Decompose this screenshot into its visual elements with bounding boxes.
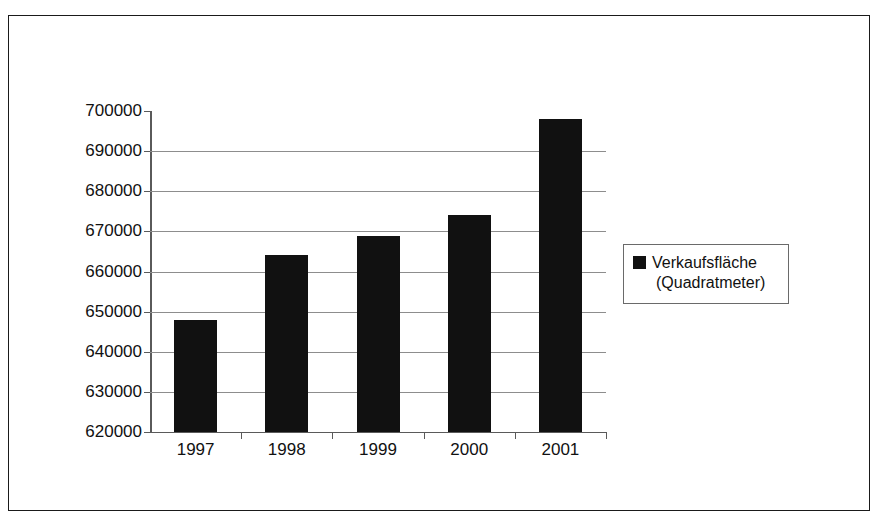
x-axis-tick <box>332 432 333 439</box>
y-axis-tick-label: 660000 <box>85 263 142 280</box>
x-axis-tick <box>424 432 425 439</box>
y-axis-tick-label: 640000 <box>85 343 142 360</box>
x-axis-tick-labels: 19971998199920002001 <box>150 441 606 467</box>
y-axis-tick-label: 680000 <box>85 182 142 199</box>
bar-2000 <box>448 215 491 432</box>
legend-color-swatch-icon <box>633 256 646 269</box>
y-axis-tick <box>144 312 150 313</box>
y-axis-tick <box>144 111 150 112</box>
bar-1998 <box>265 255 308 432</box>
y-axis-tick-labels: 7000006900006800006700006600006500006400… <box>50 111 142 432</box>
x-axis-tick-label: 1998 <box>241 441 332 458</box>
x-axis-tick <box>241 432 242 439</box>
y-axis-tick <box>144 392 150 393</box>
y-axis-tick <box>144 272 150 273</box>
legend-entry-label: Verkaufsfläche (Quadratmeter) <box>652 253 765 293</box>
y-axis-tick <box>144 151 150 152</box>
gridline <box>150 231 606 232</box>
bar-1997 <box>174 320 217 432</box>
y-axis-tick <box>144 191 150 192</box>
y-axis-tick-label: 670000 <box>85 222 142 239</box>
x-axis-tick <box>515 432 516 439</box>
gridline <box>150 191 606 192</box>
x-axis-tick-label: 1999 <box>332 441 423 458</box>
bar-1999 <box>357 236 400 432</box>
chart-legend: Verkaufsfläche (Quadratmeter) <box>623 244 789 304</box>
y-axis-tick-label: 630000 <box>85 383 142 400</box>
legend-label-line-1: Verkaufsfläche <box>652 254 757 271</box>
bar-chart: 7000006900006800006700006600006500006400… <box>9 16 871 512</box>
plot-area <box>150 111 606 432</box>
y-axis-tick <box>144 231 150 232</box>
y-axis-tick-label: 650000 <box>85 303 142 320</box>
gridline <box>150 151 606 152</box>
y-axis-tick <box>144 432 150 433</box>
legend-entry: Verkaufsfläche (Quadratmeter) <box>633 253 765 293</box>
x-axis-tick-label: 2000 <box>424 441 515 458</box>
x-axis-tick <box>606 432 607 439</box>
y-axis-tick <box>144 352 150 353</box>
legend-label-line-2: (Quadratmeter) <box>652 273 765 293</box>
chart-page-frame: 7000006900006800006700006600006500006400… <box>8 15 870 511</box>
bar-2001 <box>539 119 582 432</box>
x-axis-tick-label: 2001 <box>515 441 606 458</box>
x-axis-tick-label: 1997 <box>150 441 241 458</box>
y-axis-tick-label: 700000 <box>85 102 142 119</box>
y-axis-tick-label: 690000 <box>85 142 142 159</box>
y-axis-tick-label: 620000 <box>85 423 142 440</box>
